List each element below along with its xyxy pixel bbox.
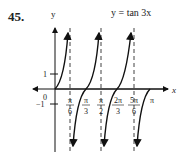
y-axis-label: y	[51, 9, 56, 19]
origin-label: 0	[43, 93, 47, 102]
svg-text:π: π	[99, 96, 103, 105]
svg-text:2: 2	[99, 107, 103, 116]
svg-text:6: 6	[68, 107, 72, 116]
svg-text:6: 6	[132, 107, 136, 116]
svg-text:π: π	[150, 96, 154, 105]
svg-text:π: π	[68, 96, 72, 105]
axes	[33, 28, 168, 152]
y-tick-1: 1	[43, 70, 47, 79]
svg-text:π: π	[84, 96, 88, 105]
svg-text:3: 3	[84, 107, 88, 116]
asymptotes	[70, 28, 134, 152]
svg-text:2π: 2π	[114, 96, 122, 105]
problem-number: 45.	[8, 9, 24, 24]
x-axis-label: x	[171, 85, 176, 95]
svg-text:3: 3	[116, 107, 120, 116]
graph-figure: 45. y = tan 3x y x 1 −1 0 π6 π3 π2 2π3 5…	[0, 0, 189, 167]
equation-label: y = tan 3x	[111, 7, 151, 18]
svg-text:5π: 5π	[130, 96, 138, 105]
